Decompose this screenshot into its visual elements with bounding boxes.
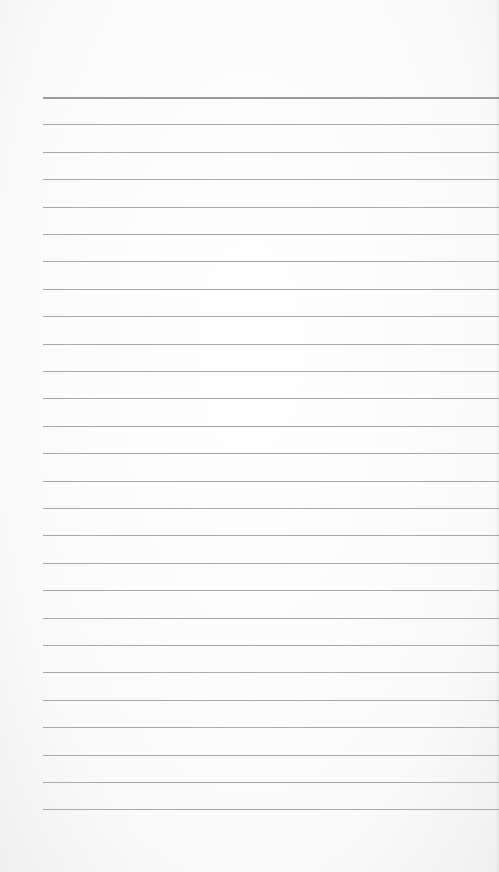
ruled-line bbox=[43, 207, 499, 208]
ruled-line bbox=[43, 426, 499, 427]
ruled-line bbox=[43, 508, 499, 509]
ruled-line bbox=[43, 97, 499, 99]
ruled-line bbox=[43, 261, 499, 262]
ruled-line bbox=[43, 535, 499, 536]
ruled-line bbox=[43, 152, 499, 153]
ruled-line bbox=[43, 453, 499, 454]
ruled-line bbox=[43, 398, 499, 399]
lined-paper bbox=[0, 0, 499, 872]
ruled-line bbox=[43, 809, 499, 810]
ruled-line bbox=[43, 755, 499, 756]
ruled-line bbox=[43, 645, 499, 646]
ruled-line bbox=[43, 371, 499, 372]
ruled-line bbox=[43, 700, 499, 701]
ruled-line bbox=[43, 234, 499, 235]
ruled-line bbox=[43, 179, 499, 180]
ruled-line bbox=[43, 481, 499, 482]
ruled-line bbox=[43, 289, 499, 290]
ruled-line bbox=[43, 727, 499, 728]
ruled-line bbox=[43, 563, 499, 564]
ruled-line bbox=[43, 316, 499, 317]
ruled-line bbox=[43, 782, 499, 783]
ruled-line bbox=[43, 124, 499, 125]
ruled-line bbox=[43, 344, 499, 345]
ruled-line bbox=[43, 590, 499, 591]
paper-edge-shadow bbox=[495, 0, 499, 872]
ruled-line bbox=[43, 618, 499, 619]
ruled-line bbox=[43, 672, 499, 673]
